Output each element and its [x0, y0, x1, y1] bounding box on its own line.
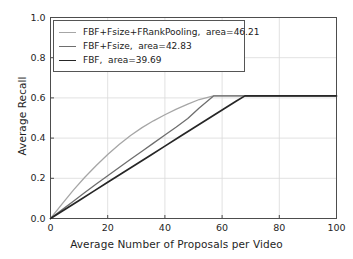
x-tick-label: 100 — [322, 222, 352, 233]
x-tick-label: 20 — [93, 222, 123, 233]
y-axis-label: Average Recall — [16, 46, 28, 186]
y-tick-label: 0.6 — [20, 92, 46, 103]
y-tick-label: 0.8 — [20, 52, 46, 63]
data-series — [51, 96, 337, 219]
legend-color-swatch-1 — [59, 46, 76, 47]
x-axis-label: Average Number of Proposals per Video — [0, 238, 353, 250]
y-tick-label: 0.4 — [20, 132, 46, 143]
x-tick-label: 60 — [207, 222, 237, 233]
legend-item-1: FBF+Fsize, area=42.83 — [59, 39, 239, 53]
y-tick-label: 1.0 — [20, 12, 46, 23]
legend-item-2: FBF, area=39.69 — [59, 53, 239, 67]
y-tick-label: 0.2 — [20, 172, 46, 183]
legend-label-0: FBF+Fsize+FRankPooling, area=46.21 — [83, 28, 259, 37]
legend-item-0: FBF+Fsize+FRankPooling, area=46.21 — [59, 25, 239, 39]
legend-label-2: FBF, area=39.69 — [83, 56, 162, 65]
x-tick-label: 40 — [150, 222, 180, 233]
legend-label-1: FBF+Fsize, area=42.83 — [83, 42, 192, 51]
recall-vs-proposals-chart: Average Number of Proposals per Video Av… — [0, 0, 353, 259]
legend-color-swatch-2 — [59, 60, 76, 61]
legend-color-swatch-0 — [59, 32, 76, 33]
x-tick-label: 80 — [264, 222, 294, 233]
legend-box: FBF+Fsize+FRankPooling, area=46.21 FBF+F… — [53, 20, 245, 72]
y-tick-label: 0.0 — [20, 213, 46, 224]
